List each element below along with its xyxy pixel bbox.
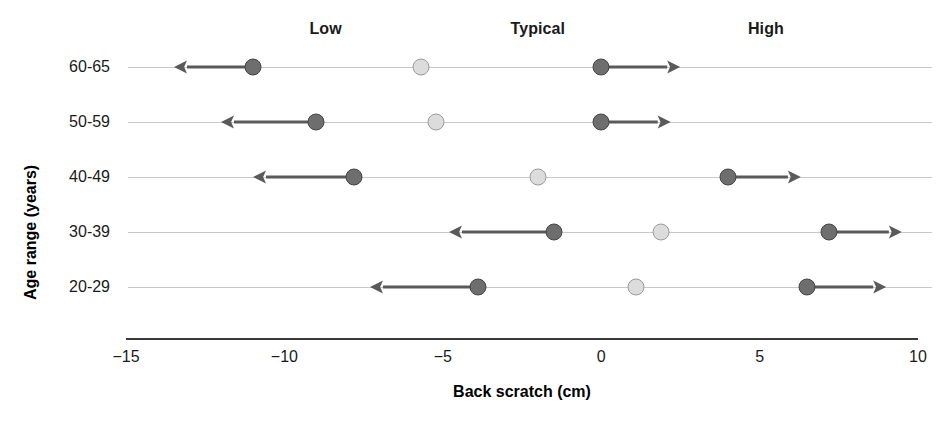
data-point-high-60-65 (593, 59, 610, 76)
data-point-typical-40-49 (529, 169, 546, 186)
x-axis-tick-5: 5 (755, 348, 764, 366)
y-axis-tick-50-59: 50-59 (0, 113, 110, 131)
data-point-typical-20-29 (628, 279, 645, 296)
range-arrow-left (444, 222, 559, 242)
data-point-high-20-29 (799, 279, 816, 296)
data-point-low-50-59 (308, 114, 325, 131)
data-point-typical-60-65 (412, 59, 429, 76)
range-arrow-left (365, 277, 483, 297)
data-point-low-40-49 (346, 169, 363, 186)
range-arrow-left (248, 167, 359, 187)
data-point-high-50-59 (593, 114, 610, 131)
y-axis-tick-60-65: 60-65 (0, 58, 110, 76)
y-axis-tick-40-49: 40-49 (0, 168, 110, 186)
y-axis-tick-30-39: 30-39 (0, 223, 110, 241)
x-axis-tick-0: 0 (597, 348, 606, 366)
back-scratch-range-chart: LowTypicalHigh Age range (years) 60-6550… (0, 0, 948, 428)
x-axis-tick-10: 10 (909, 348, 927, 366)
data-point-low-60-65 (244, 59, 261, 76)
y-axis-tick-20-29: 20-29 (0, 278, 110, 296)
data-point-typical-50-59 (428, 114, 445, 131)
x-axis-tick--15: −15 (112, 348, 139, 366)
x-axis-title: Back scratch (cm) (453, 383, 591, 401)
column-header-typical: Typical (511, 20, 566, 38)
data-point-high-30-39 (821, 224, 838, 241)
range-arrow-left (216, 112, 321, 132)
x-axis-line (126, 338, 918, 340)
data-point-high-40-49 (719, 169, 736, 186)
x-axis-tick--5: −5 (434, 348, 452, 366)
column-header-high: High (748, 20, 784, 38)
data-point-low-30-39 (545, 224, 562, 241)
column-header-low: Low (309, 20, 341, 38)
x-axis-tick--10: −10 (271, 348, 298, 366)
data-point-typical-30-39 (653, 224, 670, 241)
data-point-low-20-29 (469, 279, 486, 296)
